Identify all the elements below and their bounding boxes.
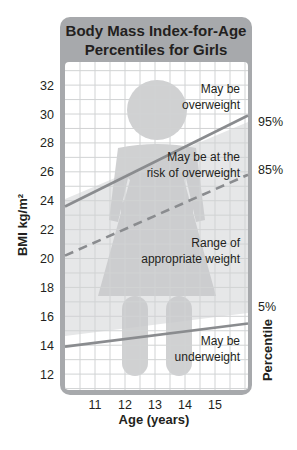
- y-tick-label: 26: [40, 165, 54, 179]
- y-tick-label: 24: [40, 194, 54, 208]
- percentile-axis-label: Percentile: [260, 319, 275, 381]
- chart-title-line-2: Percentiles for Girls: [85, 41, 228, 58]
- x-tick-label: 13: [148, 398, 162, 412]
- zone-label-risk-1: May be at the: [167, 150, 240, 164]
- x-tick-label: 14: [178, 398, 192, 412]
- x-axis-label: Age (years): [119, 412, 190, 427]
- percentile-label-95: 95%: [258, 115, 283, 129]
- percentile-label-5: 5%: [258, 300, 276, 314]
- y-tick-label: 18: [40, 281, 54, 295]
- zone-label-overweight-2: overweight: [182, 98, 241, 112]
- y-tick-label: 32: [40, 79, 54, 93]
- y-tick-label: 12: [40, 368, 54, 382]
- y-tick-label: 30: [40, 108, 54, 122]
- y-axis-ticks: 1214161820222426283032: [40, 79, 54, 382]
- y-tick-label: 22: [40, 223, 54, 237]
- y-tick-label: 14: [40, 339, 54, 353]
- zone-label-underweight-2: underweight: [175, 350, 241, 364]
- x-axis-ticks: 1112131415: [89, 398, 222, 412]
- zone-label-appropriate-1: Range of: [191, 236, 240, 250]
- percentile-label-85: 85%: [258, 163, 283, 177]
- zone-label-overweight-1: May be: [201, 82, 241, 96]
- y-axis-label: BMI kg/m²: [15, 193, 30, 256]
- x-tick-label: 11: [89, 398, 102, 412]
- zone-label-appropriate-2: appropriate weight: [141, 252, 240, 266]
- bmi-chart: Body Mass Index-for-Age Percentiles for …: [0, 0, 297, 450]
- y-tick-label: 28: [40, 136, 54, 150]
- zone-label-underweight-1: May be: [201, 334, 241, 348]
- chart-title-line-1: Body Mass Index-for-Age: [66, 22, 247, 39]
- x-tick-label: 12: [118, 398, 132, 412]
- x-tick-label: 15: [208, 398, 222, 412]
- y-tick-label: 20: [40, 252, 54, 266]
- zone-label-risk-2: risk of overweight: [147, 166, 241, 180]
- y-tick-label: 16: [40, 310, 54, 324]
